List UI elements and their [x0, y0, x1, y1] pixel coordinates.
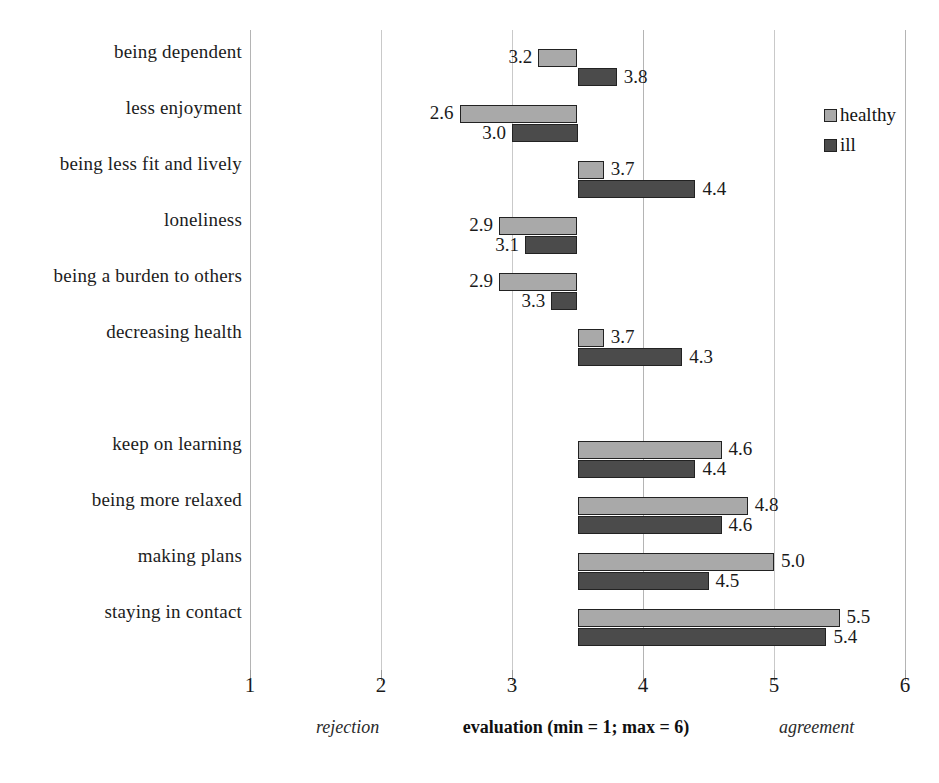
bar-ill [525, 236, 577, 254]
category-label: making plans [0, 545, 242, 567]
chart-row [0, 377, 939, 433]
bar-ill [578, 460, 696, 478]
legend-item-ill[interactable]: ill [824, 130, 939, 160]
category-label: decreasing health [0, 321, 242, 343]
bar-ill [578, 180, 696, 198]
x-axis-tick-label: 2 [361, 672, 401, 698]
chart-row: keep on learning4.64.4 [0, 433, 939, 489]
bar-value-label: 3.2 [494, 47, 532, 67]
legend: healthy ill [824, 100, 939, 160]
plot-area: being dependent3.23.8less enjoyment2.63.… [0, 30, 939, 670]
bar-ill [512, 124, 578, 142]
category-label: staying in contact [0, 601, 242, 623]
legend-item-healthy[interactable]: healthy [824, 100, 939, 130]
category-label: being dependent [0, 41, 242, 63]
bar-ill [578, 628, 827, 646]
x-axis-ticks [0, 670, 939, 686]
chart-row: being a burden to others2.93.3 [0, 265, 939, 321]
bar-value-label: 2.9 [455, 271, 493, 291]
axis-caption-center: evaluation (min = 1; max = 6) [376, 716, 776, 738]
chart-row: less enjoyment2.63.0 [0, 97, 939, 153]
bar-value-label: 4.6 [729, 515, 753, 535]
bar-value-label: 4.6 [729, 439, 753, 459]
bar-value-label: 4.4 [702, 179, 726, 199]
bar-healthy [578, 161, 604, 179]
legend-item-label: ill [840, 135, 856, 155]
chart-row: being more relaxed4.84.6 [0, 489, 939, 545]
bar-ill [578, 348, 683, 366]
bar-value-label: 2.6 [416, 103, 454, 123]
bar-value-label: 3.3 [507, 291, 545, 311]
bar-chart: being dependent3.23.8less enjoyment2.63.… [0, 0, 939, 783]
x-axis-tick-label: 4 [623, 672, 663, 698]
x-axis-tick-label: 5 [754, 672, 794, 698]
bar-value-label: 3.0 [468, 123, 506, 143]
bar-value-label: 3.1 [481, 235, 519, 255]
category-label: loneliness [0, 209, 242, 231]
category-label: less enjoyment [0, 97, 242, 119]
bar-healthy [578, 553, 775, 571]
bar-healthy [578, 329, 604, 347]
chart-row: loneliness2.93.1 [0, 209, 939, 265]
bar-healthy [578, 497, 748, 515]
chart-row: making plans5.04.5 [0, 545, 939, 601]
legend-swatch-icon [824, 139, 837, 152]
chart-row: being dependent3.23.8 [0, 41, 939, 97]
bar-healthy [499, 217, 578, 235]
bar-healthy [578, 609, 840, 627]
x-axis-tick-label: 3 [492, 672, 532, 698]
bar-value-label: 4.8 [755, 495, 779, 515]
bar-ill [551, 292, 577, 310]
category-label: being a burden to others [0, 265, 242, 287]
bar-value-label: 2.9 [455, 215, 493, 235]
bar-value-label: 5.4 [833, 627, 857, 647]
axis-caption-right: agreement [779, 716, 854, 738]
bar-value-label: 4.5 [716, 571, 740, 591]
chart-row: decreasing health3.74.3 [0, 321, 939, 377]
bar-value-label: 5.0 [781, 551, 805, 571]
bar-value-label: 5.5 [847, 607, 871, 627]
bar-healthy [538, 49, 577, 67]
bar-value-label: 3.8 [624, 67, 648, 87]
category-label: being less fit and lively [0, 153, 242, 175]
bar-value-label: 4.3 [689, 347, 713, 367]
x-axis-tick-label: 6 [885, 672, 925, 698]
bar-healthy [460, 105, 578, 123]
bar-healthy [578, 441, 722, 459]
axis-caption-left: rejection [316, 716, 379, 738]
bar-healthy [499, 273, 578, 291]
chart-row: staying in contact5.55.4 [0, 601, 939, 657]
bar-ill [578, 516, 722, 534]
legend-swatch-icon [824, 109, 837, 122]
bar-value-label: 4.4 [702, 459, 726, 479]
bar-ill [578, 572, 709, 590]
bar-ill [578, 68, 617, 86]
bar-value-label: 3.7 [611, 159, 635, 179]
legend-item-label: healthy [840, 105, 896, 125]
x-axis-tick-label: 1 [230, 672, 270, 698]
category-label: keep on learning [0, 433, 242, 455]
category-label: being more relaxed [0, 489, 242, 511]
bar-value-label: 3.7 [611, 327, 635, 347]
chart-row: being less fit and lively3.74.4 [0, 153, 939, 209]
